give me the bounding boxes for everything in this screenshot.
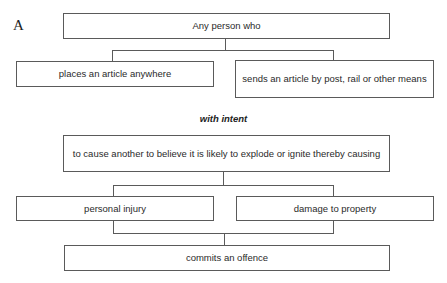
act-send-box: sends an article by post, rail or other … [235, 60, 434, 98]
conclusion-box: commits an offence [64, 245, 390, 271]
connector [112, 50, 334, 51]
intent-box: to cause another to believe it is likely… [63, 135, 390, 172]
connector [224, 233, 225, 245]
intent-heading: with intent [0, 113, 447, 124]
subject-text: Any person who [192, 20, 260, 32]
act-send-text: sends an article by post, rail or other … [242, 73, 426, 85]
act-place-box: places an article anywhere [16, 61, 214, 87]
figure-label: A [13, 17, 24, 34]
conclusion-text: commits an offence [186, 252, 268, 264]
connector [225, 38, 226, 50]
connector [112, 50, 113, 61]
result-injury-box: personal injury [16, 196, 214, 221]
act-place-text: places an article anywhere [59, 68, 171, 80]
result-damage-text: damage to property [294, 203, 376, 215]
result-injury-text: personal injury [84, 203, 146, 215]
connector [223, 171, 224, 185]
intent-text: to cause another to believe it is likely… [73, 148, 380, 160]
connector [333, 50, 334, 60]
subject-box: Any person who [63, 13, 390, 39]
result-damage-box: damage to property [236, 196, 434, 221]
connector [113, 185, 334, 186]
